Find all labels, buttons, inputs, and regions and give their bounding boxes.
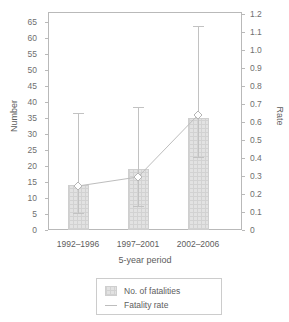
left-axis-tick-50: 50 — [13, 66, 37, 75]
chart-legend: No. of fatalities Fatality rate — [96, 278, 222, 315]
right-tickmark — [242, 86, 245, 87]
x-axis-title: 5-year period — [48, 255, 242, 265]
left-axis-tick-5: 5 — [13, 210, 37, 219]
right-axis-tick-1.1: 1.1 — [250, 28, 276, 37]
right-axis-tick-0.4: 0.4 — [250, 154, 276, 163]
right-axis-tick-0.3: 0.3 — [250, 172, 276, 181]
right-tickmark — [242, 32, 245, 33]
right-axis-tick-1.2: 1.2 — [250, 10, 276, 19]
right-tickmark — [242, 140, 245, 141]
right-axis-tick-0.5: 0.5 — [250, 136, 276, 145]
right-axis-tick-0.8: 0.8 — [250, 82, 276, 91]
y-axis-title-right: Rate — [275, 86, 285, 146]
left-axis-tick-20: 20 — [13, 162, 37, 171]
right-axis-tick-0: 0 — [250, 226, 276, 235]
left-tickmark — [45, 70, 48, 71]
right-axis-tick-0.2: 0.2 — [250, 190, 276, 199]
line-icon — [105, 305, 117, 306]
right-axis-tick-0.1: 0.1 — [250, 208, 276, 217]
hatched-square-icon — [105, 286, 117, 296]
right-axis-tick-1.0: 1.0 — [250, 46, 276, 55]
left-axis-tick-55: 55 — [13, 50, 37, 59]
right-tickmark — [242, 230, 245, 231]
legend-label-fatalities: No. of fatalities — [124, 286, 180, 296]
error-cap-lower-1997-2001 — [133, 206, 144, 207]
error-cap-upper-1997-2001 — [133, 107, 144, 108]
left-axis-tick-60: 60 — [13, 34, 37, 43]
error-bar-1997-2001 — [138, 107, 139, 206]
y-axis-title-left: Number — [9, 86, 19, 146]
left-tickmark — [45, 214, 48, 215]
right-tickmark — [242, 14, 245, 15]
left-tickmark — [45, 230, 48, 231]
error-bar-1992-1996 — [78, 113, 79, 213]
left-axis-tick-65: 65 — [13, 18, 37, 27]
right-axis-tick-0.7: 0.7 — [250, 100, 276, 109]
right-tickmark — [242, 68, 245, 69]
right-tickmark — [242, 194, 245, 195]
left-tickmark — [45, 22, 48, 23]
error-cap-upper-2002-2006 — [193, 26, 204, 27]
left-axis-tick-10: 10 — [13, 194, 37, 203]
left-tickmark — [45, 134, 48, 135]
left-tickmark — [45, 86, 48, 87]
left-tickmark — [45, 150, 48, 151]
left-tickmark — [45, 102, 48, 103]
left-tickmark — [45, 166, 48, 167]
error-cap-lower-2002-2006 — [193, 157, 204, 158]
left-axis-tick-25: 25 — [13, 146, 37, 155]
left-axis-tick-0: 0 — [13, 226, 37, 235]
left-tickmark — [45, 198, 48, 199]
right-tickmark — [242, 212, 245, 213]
fatality-chart-figure: 0 5 10 15 20 25 30 35 40 45 50 55 60 65 … — [0, 0, 289, 322]
left-tickmark — [45, 38, 48, 39]
left-tickmark — [45, 182, 48, 183]
error-bar-2002-2006 — [198, 26, 199, 157]
right-tickmark — [242, 50, 245, 51]
legend-item-fatalities: No. of fatalities — [105, 286, 180, 296]
right-tickmark — [242, 122, 245, 123]
left-tickmark — [45, 54, 48, 55]
legend-item-rate: Fatality rate — [105, 300, 168, 310]
left-axis-tick-15: 15 — [13, 178, 37, 187]
right-tickmark — [242, 176, 245, 177]
right-tickmark — [242, 158, 245, 159]
x-tick-label-2002-2006: 2002–2006 — [163, 239, 233, 249]
left-tickmark — [45, 118, 48, 119]
error-cap-upper-1992-1996 — [73, 113, 84, 114]
right-axis-tick-0.9: 0.9 — [250, 64, 276, 73]
error-cap-lower-1992-1996 — [73, 213, 84, 214]
legend-label-rate: Fatality rate — [124, 300, 168, 310]
right-axis-tick-0.6: 0.6 — [250, 118, 276, 127]
right-tickmark — [242, 104, 245, 105]
